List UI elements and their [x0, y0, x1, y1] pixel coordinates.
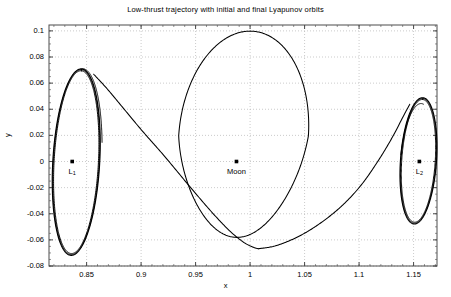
y-tick-label: 0.04 [8, 104, 44, 113]
marker-label-moon: Moon [214, 167, 258, 176]
plot-canvas [0, 0, 451, 297]
marker-label-l2: L2 [397, 167, 441, 176]
x-tick-label: 0.95 [176, 270, 216, 279]
x-tick-label: 1.05 [285, 270, 325, 279]
y-tick-label: 0.02 [8, 130, 44, 139]
y-tick-label: 0 [8, 157, 44, 166]
gridlines [49, 25, 437, 266]
y-tick-label: -0.04 [8, 209, 44, 218]
trajectory-curves [52, 31, 437, 255]
y-tick-label: 0.1 [8, 26, 44, 35]
x-tick-label: 1.1 [339, 270, 379, 279]
tick-marks [49, 25, 437, 266]
figure: Low-thrust trajectory with initial and f… [0, 0, 451, 297]
y-axis-label: y [3, 133, 12, 137]
x-tick-label: 1.15 [394, 270, 434, 279]
y-tick-label: -0.08 [8, 261, 44, 270]
marker-label-l1: L1 [50, 167, 94, 176]
y-tick-label: -0.06 [8, 235, 44, 244]
y-tick-label: -0.02 [8, 183, 44, 192]
x-tick-label: 0.9 [121, 270, 161, 279]
point-markers [70, 160, 421, 164]
x-axis-label: x [0, 281, 451, 290]
x-tick-label: 0.85 [67, 270, 107, 279]
axes-frame [49, 25, 437, 266]
y-tick-label: 0.06 [8, 78, 44, 87]
x-tick-label: 1 [230, 270, 270, 279]
y-tick-label: 0.08 [8, 52, 44, 61]
